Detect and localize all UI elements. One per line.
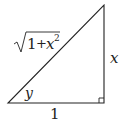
opposite-side-label: x [110, 49, 119, 67]
right-triangle-diagram: 1 + x 2 x y 1 [0, 0, 120, 122]
angle-label: y [24, 85, 34, 101]
right-angle-marker [99, 98, 104, 103]
triangle [8, 5, 104, 103]
hypotenuse-label: 1 + x 2 [14, 32, 60, 53]
radicand-exponent: 2 [54, 33, 60, 43]
adjacent-side-label: 1 [50, 105, 60, 122]
